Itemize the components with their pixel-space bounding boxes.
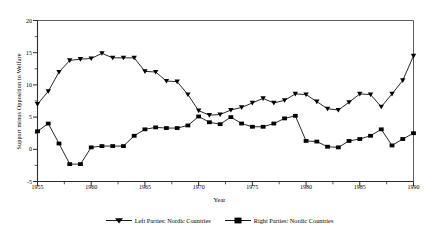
square-marker-icon xyxy=(225,216,251,225)
x-tick-label: 1970 xyxy=(184,184,214,191)
legend-label-left-parties: Left Parties: Nordic Countries xyxy=(135,217,211,224)
x-tick-label: 1960 xyxy=(76,184,106,191)
triangle-down-marker-icon xyxy=(106,216,132,225)
x-axis-title: Year xyxy=(0,196,439,203)
series-left-parties xyxy=(35,51,416,117)
legend-label-right-parties: Right Parties: Nordic Countries xyxy=(254,217,334,224)
legend-entry-left-parties: Left Parties: Nordic Countries xyxy=(106,216,211,225)
chart-legend: Left Parties: Nordic Countries Right Par… xyxy=(0,216,439,225)
x-tick-label: 1955 xyxy=(23,184,53,191)
x-tick-label: 1990 xyxy=(399,184,429,191)
x-tick-label: 1965 xyxy=(130,184,160,191)
x-axis-tick-labels: 19551960196519701975198019851990 xyxy=(0,184,439,196)
x-tick-label: 1985 xyxy=(345,184,375,191)
welfare-support-line-chart: Support minus Opposition to Welfare 2015… xyxy=(0,0,439,239)
x-tick-label: 1975 xyxy=(237,184,267,191)
legend-entry-right-parties: Right Parties: Nordic Countries xyxy=(225,216,334,225)
series-right-parties xyxy=(35,114,416,166)
plot-area xyxy=(0,0,439,239)
x-tick-label: 1980 xyxy=(291,184,321,191)
